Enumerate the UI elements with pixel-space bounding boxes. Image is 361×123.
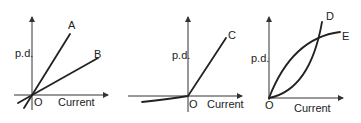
x-axis-label: Current [207, 98, 244, 110]
curve-label-e: E [342, 30, 349, 42]
curve-label-a: A [68, 19, 76, 31]
origin-label: O [34, 96, 43, 108]
y-axis-label: p.d. [172, 49, 190, 61]
curve-d [269, 22, 322, 98]
origin-label: O [189, 98, 198, 110]
panel-3: p.d. O Current D E [251, 10, 349, 114]
x-axis-label: Current [294, 102, 331, 114]
y-axis-label: p.d. [251, 52, 269, 64]
line-c [142, 38, 226, 102]
curve-label-d: D [326, 10, 334, 22]
panel-1: p.d. O Current A B [14, 17, 108, 110]
pd-current-graphs: p.d. O Current A B p.d. O Current C p.d.… [0, 0, 361, 123]
panel-2: p.d. O Current C [128, 17, 244, 112]
curve-label-b: B [94, 48, 101, 60]
origin-label: O [265, 99, 274, 111]
y-axis-label: p.d. [15, 47, 33, 59]
curve-label-c: C [228, 29, 236, 41]
curve-e [269, 32, 340, 98]
x-axis-label: Current [58, 96, 95, 108]
